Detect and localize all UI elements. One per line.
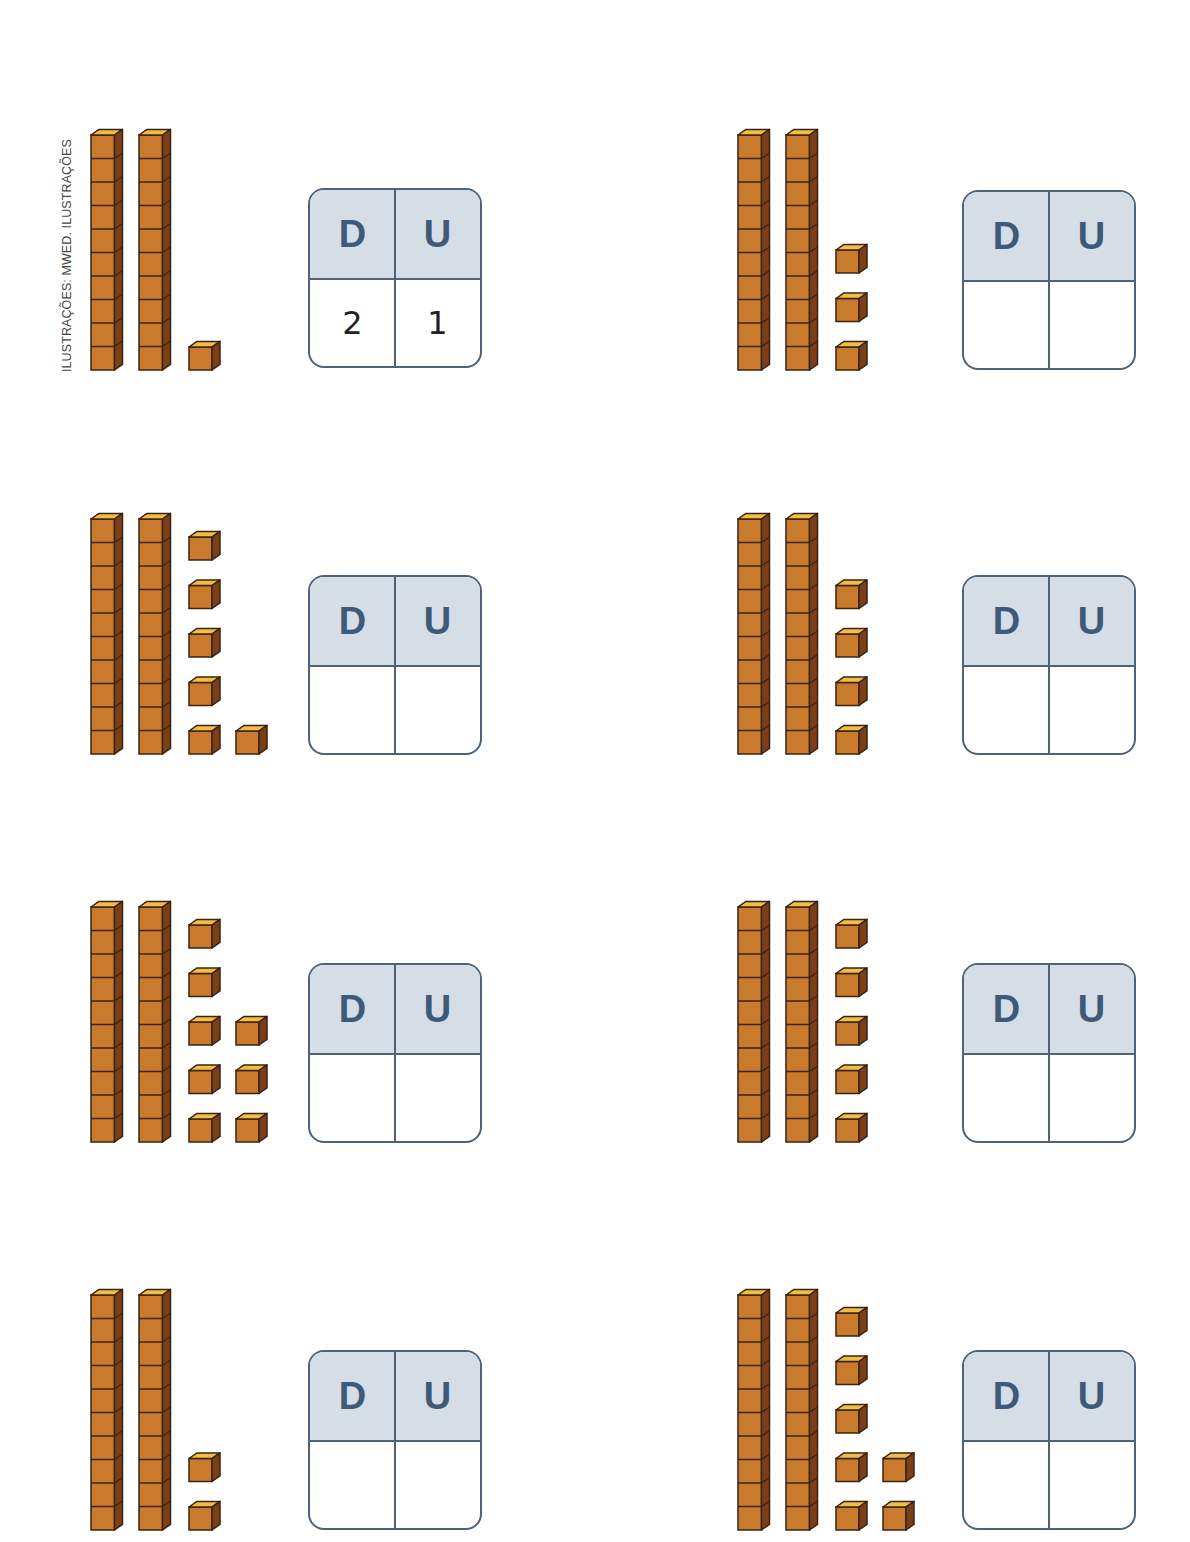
units-header: U — [395, 1352, 480, 1440]
unit-cube-icon — [189, 1501, 220, 1530]
tens-rod-icon — [738, 1289, 770, 1530]
tens-answer-cell[interactable] — [964, 1055, 1049, 1141]
unit-cube-icon — [236, 1113, 267, 1142]
unit-cube-icon — [836, 968, 867, 997]
tens-rod-icon — [91, 901, 123, 1142]
tens-answer-cell[interactable] — [310, 1442, 395, 1528]
unit-cube-icon — [189, 341, 220, 370]
place-value-table: DU21 — [308, 188, 482, 368]
units-answer-cell[interactable] — [1049, 1055, 1134, 1141]
base-ten-blocks — [88, 900, 288, 1150]
units-answer-cell[interactable]: 1 — [395, 280, 480, 366]
exercise-a: DU21 — [88, 128, 538, 378]
units-header: U — [1049, 1352, 1134, 1440]
unit-cube-icon — [189, 725, 220, 754]
unit-cube-icon — [836, 1065, 867, 1094]
unit-cube-icon — [883, 1501, 914, 1530]
exercise-e: DU — [88, 900, 538, 1150]
unit-cube-icon — [836, 580, 867, 609]
unit-cube-icon — [189, 919, 220, 948]
tens-answer-cell[interactable] — [310, 1055, 395, 1141]
tens-rod-icon — [786, 129, 818, 370]
unit-cube-icon — [189, 677, 220, 706]
unit-cube-icon — [189, 628, 220, 657]
unit-cube-icon — [836, 1453, 867, 1482]
tens-rod-icon — [139, 1289, 171, 1530]
tens-answer-cell[interactable] — [310, 667, 395, 753]
tens-rod-icon — [786, 1289, 818, 1530]
tens-rod-icon — [139, 513, 171, 754]
unit-cube-icon — [836, 1356, 867, 1385]
unit-cube-icon — [189, 580, 220, 609]
place-value-table: DU — [308, 963, 482, 1143]
unit-cube-icon — [189, 531, 220, 560]
tens-header: D — [964, 192, 1049, 280]
units-answer-cell[interactable] — [1049, 667, 1134, 753]
place-value-table: DU — [962, 575, 1136, 755]
unit-cube-icon — [836, 725, 867, 754]
tens-rod-icon — [786, 901, 818, 1142]
exercise-h: DU — [735, 1288, 1185, 1538]
unit-cube-icon — [189, 1453, 220, 1482]
unit-cube-icon — [836, 1501, 867, 1530]
unit-cube-icon — [836, 677, 867, 706]
place-value-table: DU — [308, 575, 482, 755]
exercise-d: DU — [735, 512, 1185, 762]
unit-cube-icon — [236, 725, 267, 754]
tens-answer-cell[interactable] — [964, 667, 1049, 753]
units-answer-cell[interactable] — [1049, 1442, 1134, 1528]
unit-cube-icon — [236, 1065, 267, 1094]
unit-cube-icon — [836, 1307, 867, 1336]
place-value-table: DU — [962, 1350, 1136, 1530]
unit-cube-icon — [836, 244, 867, 273]
unit-cube-icon — [189, 968, 220, 997]
tens-answer-cell[interactable] — [964, 282, 1049, 368]
tens-header: D — [964, 1352, 1049, 1440]
base-ten-blocks — [88, 1288, 288, 1538]
tens-header: D — [310, 190, 395, 278]
base-ten-blocks — [88, 128, 288, 378]
units-header: U — [1049, 192, 1134, 280]
tens-header: D — [310, 965, 395, 1053]
units-answer-cell[interactable] — [1049, 282, 1134, 368]
tens-header: D — [964, 965, 1049, 1053]
base-ten-blocks — [735, 512, 935, 762]
tens-rod-icon — [91, 513, 123, 754]
exercise-b: DU — [735, 128, 1185, 378]
tens-answer-cell[interactable] — [964, 1442, 1049, 1528]
units-answer-cell[interactable] — [395, 667, 480, 753]
unit-cube-icon — [189, 1065, 220, 1094]
base-ten-blocks — [735, 128, 935, 378]
units-answer-cell[interactable] — [395, 1442, 480, 1528]
unit-cube-icon — [236, 1016, 267, 1045]
units-header: U — [395, 965, 480, 1053]
unit-cube-icon — [836, 341, 867, 370]
unit-cube-icon — [189, 1016, 220, 1045]
tens-rod-icon — [139, 129, 171, 370]
tens-rod-icon — [786, 513, 818, 754]
unit-cube-icon — [189, 1113, 220, 1142]
units-answer-cell[interactable] — [395, 1055, 480, 1141]
base-ten-blocks — [735, 1288, 935, 1538]
unit-cube-icon — [836, 1113, 867, 1142]
tens-rod-icon — [738, 129, 770, 370]
tens-header: D — [310, 1352, 395, 1440]
place-value-table: DU — [962, 963, 1136, 1143]
place-value-table: DU — [962, 190, 1136, 370]
units-header: U — [1049, 965, 1134, 1053]
tens-rod-icon — [91, 129, 123, 370]
unit-cube-icon — [836, 628, 867, 657]
illustration-credit: ILUSTRAÇÕES: MWED. ILUSTRAÇÕES — [60, 139, 74, 372]
tens-header: D — [310, 577, 395, 665]
base-ten-blocks — [88, 512, 288, 762]
unit-cube-icon — [836, 1016, 867, 1045]
exercise-g: DU — [88, 1288, 538, 1538]
tens-rod-icon — [139, 901, 171, 1142]
unit-cube-icon — [836, 1404, 867, 1433]
tens-answer-cell[interactable]: 2 — [310, 280, 395, 366]
tens-rod-icon — [738, 513, 770, 754]
exercise-f: DU — [735, 900, 1185, 1150]
unit-cube-icon — [883, 1453, 914, 1482]
unit-cube-icon — [836, 293, 867, 322]
tens-rod-icon — [738, 901, 770, 1142]
